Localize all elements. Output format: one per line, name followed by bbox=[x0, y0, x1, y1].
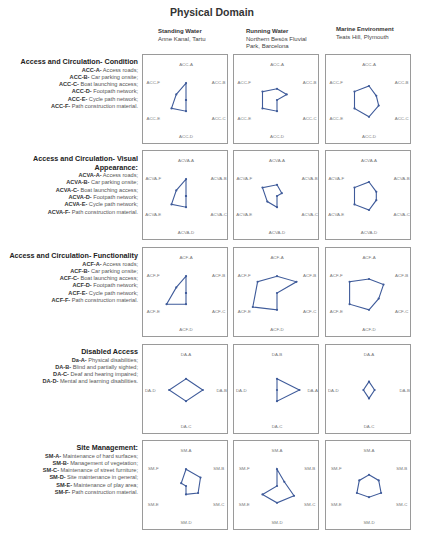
data-point-marker bbox=[276, 195, 278, 197]
legend-text: Boat launching access; bbox=[79, 187, 138, 193]
legend-item: ACF-F- Path construction material. bbox=[2, 297, 138, 304]
data-point-marker bbox=[185, 485, 187, 487]
legend-code: ACF-A- bbox=[82, 261, 101, 267]
section-legend: Access and Circulation- Visual Appearanc… bbox=[2, 155, 138, 216]
data-point-marker bbox=[378, 479, 380, 481]
legend-text: Access roads; bbox=[102, 261, 138, 267]
data-point-marker bbox=[170, 203, 172, 205]
legend-item: SM-D- Site maintenance in general; bbox=[2, 474, 138, 481]
legend-text: Path construction material. bbox=[70, 297, 138, 303]
axis-label: SM-F bbox=[331, 466, 342, 471]
legend-code: DA-D- bbox=[43, 378, 59, 384]
data-point-marker bbox=[368, 278, 370, 280]
data-point-marker bbox=[293, 495, 295, 497]
axis-label: DA-D bbox=[328, 388, 339, 393]
legend-item: ACC-C- Boat launching access; bbox=[2, 81, 138, 88]
radar-chart: ACVA-AACVA-BACVA-CACVA-DACVA-EACVA-F bbox=[325, 150, 411, 240]
radar-series bbox=[263, 469, 295, 503]
legend-code: SM-C- bbox=[43, 467, 59, 473]
legend-text: Car parking onsite; bbox=[89, 179, 138, 185]
axis-label: ACF-B bbox=[212, 273, 225, 278]
column-subtitle: Northern Besòs Fluvial Park, Barcelona bbox=[246, 36, 307, 50]
legend-item: ACC-E- Cycle path network; bbox=[2, 96, 138, 103]
axis-label: ACF-F bbox=[238, 273, 251, 278]
radar-chart: ACF-AACF-BACF-CACF-DACF-EACF-F bbox=[325, 247, 411, 337]
legend-code: ACC-E- bbox=[68, 96, 88, 102]
legend-text: Mental and learning disabilities. bbox=[58, 378, 138, 384]
legend-item: Da-A- Physical disabilities; bbox=[2, 357, 138, 364]
axis-label: ACF-C bbox=[212, 309, 225, 314]
data-point-marker bbox=[185, 195, 187, 197]
legend-code: ACC-A- bbox=[82, 67, 102, 73]
data-point-marker bbox=[374, 389, 376, 391]
section-heading: Site Management: bbox=[2, 444, 138, 453]
data-point-marker bbox=[276, 206, 278, 208]
legend-code: ACC-B- bbox=[70, 74, 90, 80]
legend-text: Maintenance of street furniture; bbox=[59, 467, 138, 473]
axis-label: SM-A bbox=[272, 448, 283, 453]
legend-item: ACF-C- Boat launching access; bbox=[2, 275, 138, 282]
data-point-marker bbox=[276, 389, 278, 391]
legend-text: Car parking onsite; bbox=[89, 268, 138, 274]
data-point-marker bbox=[378, 298, 380, 300]
data-point-marker bbox=[185, 82, 187, 84]
data-point-marker bbox=[353, 91, 355, 93]
axis-label: ACC-F bbox=[147, 80, 161, 85]
radar-series bbox=[167, 276, 186, 304]
legend-item: SM-E- Maintenance of play area; bbox=[2, 482, 138, 489]
axis-label: SM-F bbox=[148, 466, 159, 471]
data-point-marker bbox=[252, 306, 254, 308]
radar-series bbox=[253, 276, 297, 310]
data-point-marker bbox=[202, 389, 204, 391]
axis-label: SM-D bbox=[363, 520, 374, 525]
axis-label: ACVA-D bbox=[361, 230, 377, 235]
data-point-marker bbox=[276, 502, 278, 504]
axis-label: ACF-A bbox=[270, 255, 283, 260]
axis-label: SM-E bbox=[148, 502, 159, 507]
axis-label: ACC-D bbox=[179, 134, 193, 139]
data-point-marker bbox=[185, 292, 187, 294]
section-legend: Site Management:SM-A- Maintenance of har… bbox=[2, 444, 138, 496]
axis-label: ACF-E bbox=[330, 309, 343, 314]
radar-chart: DA-BDA-ADA-CDA-D bbox=[233, 344, 319, 434]
axis-label: SM-C bbox=[396, 502, 407, 507]
data-point-marker bbox=[276, 400, 278, 402]
column-subtitle: Teats Hill, Plymouth bbox=[336, 34, 389, 40]
data-point-marker bbox=[175, 93, 177, 95]
legend-item: ACVA-F- Path construction material. bbox=[2, 209, 138, 216]
legend-text: Cycle path network; bbox=[87, 201, 138, 207]
radar-chart: SM-ASM-BSM-CSM-DSM-ESM-F bbox=[233, 440, 319, 530]
data-point-marker bbox=[283, 481, 285, 483]
legend-text: Footpath network; bbox=[92, 282, 138, 288]
data-point-marker bbox=[368, 381, 370, 383]
legend-text: Footpath network; bbox=[92, 88, 138, 94]
axis-label: ACF-B bbox=[395, 273, 408, 278]
axis-label: ACC-B bbox=[395, 80, 409, 85]
data-point-marker bbox=[380, 492, 382, 494]
data-point-marker bbox=[368, 474, 370, 476]
axis-label: ACF-F bbox=[147, 273, 160, 278]
data-point-marker bbox=[368, 181, 370, 183]
data-point-marker bbox=[185, 110, 187, 112]
axis-label: ACF-A bbox=[179, 255, 192, 260]
axis-label: ACVA-D bbox=[269, 230, 285, 235]
radar-series bbox=[169, 379, 203, 401]
data-point-marker bbox=[261, 493, 263, 495]
column-title: Running Water bbox=[246, 28, 320, 36]
data-point-marker bbox=[378, 105, 380, 107]
legend-item: ACF-B- Car parking onsite; bbox=[2, 268, 138, 275]
data-point-marker bbox=[257, 281, 259, 283]
data-point-marker bbox=[368, 116, 370, 118]
radar-series bbox=[355, 182, 377, 210]
axis-label: ACF-C bbox=[303, 309, 316, 314]
axis-label: ACVA-B bbox=[302, 176, 318, 181]
data-point-marker bbox=[185, 303, 187, 305]
axis-label: ACC-D bbox=[362, 134, 376, 139]
data-point-marker bbox=[353, 187, 355, 189]
legend-item: SM-A- Maintenance of hard surfaces; bbox=[2, 453, 138, 460]
legend-code: ACF-B- bbox=[70, 268, 89, 274]
data-point-marker bbox=[362, 389, 364, 391]
data-point-marker bbox=[349, 281, 351, 283]
axis-label: ACF-E bbox=[147, 309, 160, 314]
axis-label: SM-B bbox=[304, 466, 315, 471]
